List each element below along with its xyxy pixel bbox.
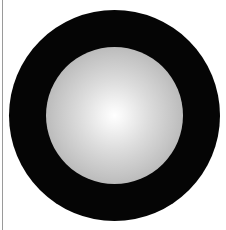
inner-gradient-sphere xyxy=(46,47,183,184)
sphere-figure xyxy=(0,0,226,230)
